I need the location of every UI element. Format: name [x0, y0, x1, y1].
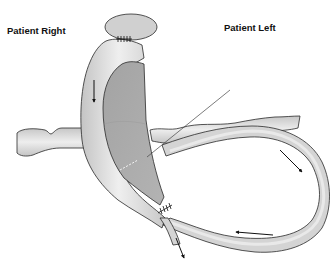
arrow-loop-right-down	[280, 150, 302, 172]
arrow-outflow-down	[176, 238, 184, 258]
arrow-loop-bottom-left	[236, 232, 273, 235]
vascular-diagram	[0, 0, 331, 270]
top-suture-marks	[116, 36, 132, 42]
horizontal-left-vessel	[17, 128, 90, 156]
top-ellipse-vessel	[105, 14, 157, 40]
